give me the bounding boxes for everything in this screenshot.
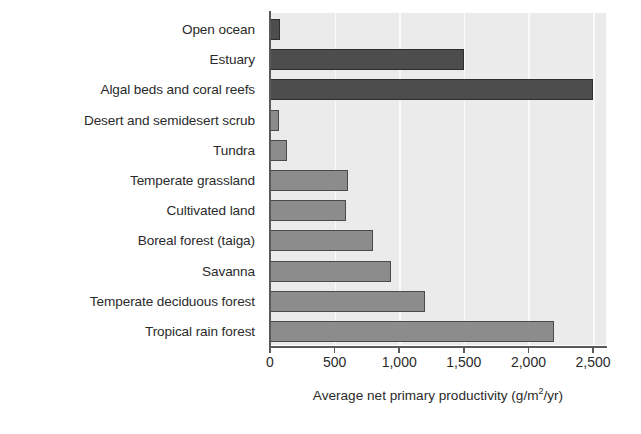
category-label-cultivated-land: Cultivated land — [167, 196, 255, 226]
x-tick-label-500: 500 — [323, 354, 346, 370]
bar-desert-and-semidesert-scrub — [270, 110, 279, 131]
bar-open-ocean — [270, 19, 280, 40]
x-tick-2000 — [528, 346, 530, 353]
x-tick-label-2500: 2,500 — [576, 354, 611, 370]
bar-tundra — [270, 140, 287, 161]
category-label-boreal-forest-taiga: Boreal forest (taiga) — [138, 226, 255, 256]
gridline-2500 — [593, 13, 595, 345]
category-label-temperate-grassland: Temperate grassland — [130, 166, 255, 196]
x-tick-label-1500: 1,500 — [446, 354, 481, 370]
category-label-desert-and-semidesert-scrub: Desert and semidesert scrub — [84, 106, 255, 136]
category-label-estuary: Estuary — [210, 45, 255, 75]
gridline-1500 — [464, 13, 466, 345]
y-axis-line — [269, 11, 271, 347]
category-label-savanna: Savanna — [202, 257, 255, 287]
bar-tropical-rain-forest — [270, 321, 554, 342]
x-tick-500 — [334, 346, 336, 353]
x-axis-line — [269, 346, 607, 348]
bar-savanna — [270, 261, 391, 282]
category-label-algal-beds-and-coral-reefs: Algal beds and coral reefs — [100, 75, 255, 105]
bar-chart-figure: Open oceanEstuaryAlgal beds and coral re… — [0, 0, 641, 434]
category-label-temperate-deciduous-forest: Temperate deciduous forest — [90, 287, 255, 317]
x-tick-1000 — [398, 346, 400, 353]
x-tick-0 — [269, 346, 271, 353]
bar-temperate-grassland — [270, 170, 348, 191]
x-axis-title-exponent: 2 — [539, 386, 544, 396]
bar-boreal-forest-taiga — [270, 230, 373, 251]
bar-estuary — [270, 49, 464, 70]
plot-area — [270, 13, 606, 345]
x-tick-label-1000: 1,000 — [382, 354, 417, 370]
x-tick-2500 — [592, 346, 594, 353]
bar-cultivated-land — [270, 200, 346, 221]
x-axis-title: Average net primary productivity (g/m2/y… — [270, 386, 606, 403]
category-label-tropical-rain-forest: Tropical rain forest — [145, 317, 255, 347]
x-tick-label-0: 0 — [266, 354, 274, 370]
bar-algal-beds-and-coral-reefs — [270, 79, 593, 100]
gridline-2000 — [528, 13, 530, 345]
category-label-tundra: Tundra — [213, 136, 255, 166]
x-tick-1500 — [463, 346, 465, 353]
category-label-open-ocean: Open ocean — [182, 15, 255, 45]
category-axis-labels: Open oceanEstuaryAlgal beds and coral re… — [0, 13, 263, 345]
bar-temperate-deciduous-forest — [270, 291, 425, 312]
x-tick-label-2000: 2,000 — [511, 354, 546, 370]
